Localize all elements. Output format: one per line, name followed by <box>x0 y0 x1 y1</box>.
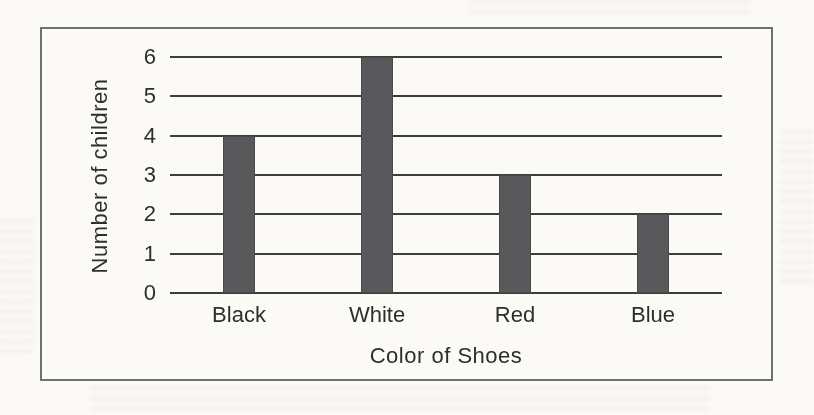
scan-artifact <box>90 387 710 411</box>
category-labels: BlackWhiteRedBlue <box>170 302 722 328</box>
category-label-black: Black <box>170 302 308 328</box>
bar-black <box>223 136 255 293</box>
gridline <box>170 95 722 97</box>
scan-artifact <box>0 220 34 360</box>
x-axis-title: Color of Shoes <box>170 343 722 369</box>
y-tick-label: 4 <box>108 123 156 149</box>
bar-white <box>361 57 393 293</box>
y-tick-label: 6 <box>108 44 156 70</box>
y-tick-label: 5 <box>108 83 156 109</box>
plot-area <box>170 57 722 293</box>
gridline <box>170 56 722 58</box>
y-tick-label: 2 <box>108 201 156 227</box>
category-label-red: Red <box>446 302 584 328</box>
scan-artifact <box>780 130 814 290</box>
bar-red <box>499 175 531 293</box>
scan-artifact <box>470 0 750 16</box>
y-tick-label: 1 <box>108 241 156 267</box>
scanned-book-page: Number of children 0123456 BlackWhiteRed… <box>0 0 814 415</box>
y-axis-ticks: 0123456 <box>108 57 156 293</box>
bar-blue <box>637 214 669 293</box>
y-tick-label: 0 <box>108 280 156 306</box>
category-label-blue: Blue <box>584 302 722 328</box>
y-tick-label: 3 <box>108 162 156 188</box>
category-label-white: White <box>308 302 446 328</box>
